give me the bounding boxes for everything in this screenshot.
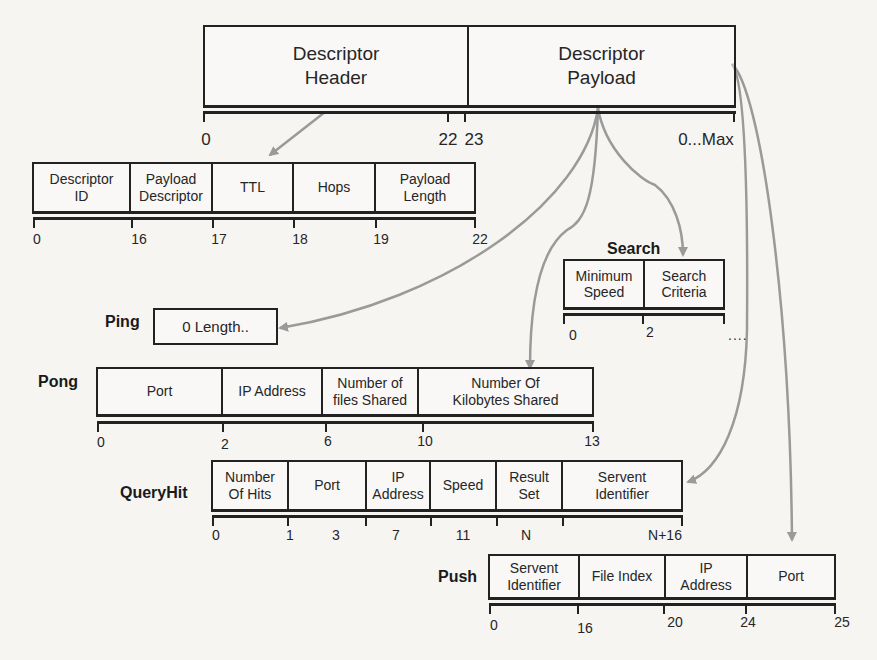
- offset-label: 2: [221, 436, 229, 452]
- queryhit-title: QueryHit: [120, 484, 188, 502]
- offset-label: 24: [740, 614, 756, 630]
- pong-offset-ruler: [97, 421, 594, 429]
- field-servent-identifier: Servent Identifier: [563, 462, 681, 509]
- push-box: Servent Identifier File Index IP Address…: [488, 554, 836, 600]
- search-box: Minimum Speed Search Criteria: [563, 259, 725, 310]
- header-offset-ruler: [33, 217, 476, 225]
- field-descriptor-payload: Descriptor Payload: [469, 27, 734, 105]
- arrow-pong: [530, 108, 598, 368]
- field-port: Port: [289, 462, 367, 509]
- offset-label: 1: [286, 527, 294, 543]
- field-port: Port: [748, 556, 834, 597]
- field-search-criteria: Search Criteria: [645, 261, 723, 307]
- field-result-set: Result Set: [497, 462, 563, 509]
- offset-label: 17: [211, 231, 227, 247]
- field-ip-address: IP Address: [666, 556, 748, 597]
- descriptor-box: Descriptor Header Descriptor Payload: [203, 25, 736, 108]
- field-descriptor-id: Descriptor ID: [34, 164, 131, 211]
- field-payload-length: Payload Length: [376, 164, 474, 211]
- queryhit-offset-ruler: [212, 515, 683, 523]
- push-title: Push: [438, 568, 477, 586]
- offset-label: 0: [201, 130, 210, 150]
- search-title: Search: [607, 240, 660, 258]
- pong-box: Port IP Address Number of files Shared N…: [96, 367, 594, 417]
- offset-label: 0: [212, 527, 220, 543]
- pong-title: Pong: [38, 373, 78, 391]
- offset-label: 0...Max: [678, 130, 734, 150]
- offset-label: 13: [584, 433, 600, 449]
- offset-label: 0: [569, 327, 577, 343]
- field-servent-identifier: Servent Identifier: [490, 556, 580, 597]
- offset-label: 18: [292, 231, 308, 247]
- field-descriptor-header: Descriptor Header: [205, 27, 469, 105]
- ping-box: 0 Length..: [153, 308, 278, 345]
- field-port: Port: [98, 369, 223, 414]
- offset-label: 22: [472, 231, 488, 247]
- field-number-of-hits: Number Of Hits: [213, 462, 289, 509]
- offset-label: 16: [577, 620, 593, 636]
- offset-label: 20: [667, 614, 683, 630]
- arrow-push: [732, 64, 792, 540]
- queryhit-box: Number Of Hits Port IP Address Speed Res…: [211, 460, 683, 512]
- field-ttl: TTL: [213, 164, 294, 211]
- field-ip-address: IP Address: [223, 369, 323, 414]
- search-offset-ruler: [563, 313, 725, 321]
- offset-label: 19: [373, 231, 389, 247]
- field-payload-descriptor: Payload Descriptor: [131, 164, 213, 211]
- offset-label: 11: [456, 527, 471, 543]
- offset-label: 16: [131, 231, 147, 247]
- offset-label: 2: [646, 324, 654, 340]
- offset-label: 25: [834, 614, 850, 630]
- field-speed: Speed: [431, 462, 497, 509]
- continuation-ellipsis: ....: [728, 327, 748, 343]
- header-detail-box: Descriptor ID Payload Descriptor TTL Hop…: [32, 162, 476, 214]
- field-minimum-speed: Minimum Speed: [565, 261, 645, 307]
- offset-label: 7: [392, 527, 400, 543]
- offset-label: N+16: [648, 527, 682, 543]
- offset-label: N: [521, 527, 531, 543]
- offset-label: 10: [417, 433, 433, 449]
- offset-label: 0: [490, 617, 498, 633]
- offset-label: 3: [332, 527, 340, 543]
- push-offset-ruler: [489, 603, 836, 611]
- field-zero-length: 0 Length..: [155, 310, 276, 343]
- ping-title: Ping: [105, 313, 140, 331]
- offset-label: 6: [324, 433, 332, 449]
- offset-label: 22: [439, 130, 458, 150]
- descriptor-offset-ruler: [203, 111, 736, 119]
- field-kilobytes-shared: Number Of Kilobytes Shared: [419, 369, 592, 414]
- arrow-search: [598, 108, 683, 255]
- offset-label: 0: [97, 434, 105, 450]
- offset-label: 0: [33, 231, 41, 247]
- offset-label: 23: [465, 130, 484, 150]
- gnutella-descriptor-diagram: Descriptor Header Descriptor Payload 0 2…: [0, 0, 877, 660]
- field-hops: Hops: [294, 164, 376, 211]
- field-file-index: File Index: [580, 556, 666, 597]
- field-files-shared: Number of files Shared: [323, 369, 419, 414]
- field-ip-address: IP Address: [367, 462, 431, 509]
